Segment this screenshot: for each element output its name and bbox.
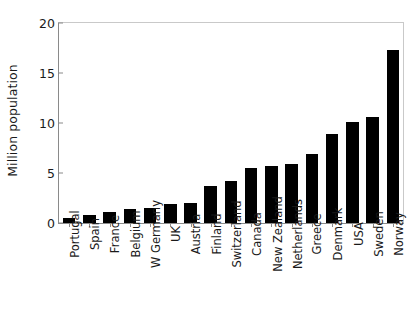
y-tick-20: 20 [39, 16, 59, 31]
x-axis-labels: PortugalSpainFranceBelgiumW GermanyUKAus… [58, 232, 402, 312]
y-axis-title: Million population [0, 0, 24, 240]
y-tick-label: 10 [39, 116, 59, 131]
y-tick-5: 5 [47, 166, 59, 181]
x-axis-label-new-zealand: New Zealand [260, 232, 280, 312]
y-tick-label: 5 [47, 166, 59, 181]
y-tick-label: 0 [47, 216, 59, 231]
x-axis-label-w-germany: W Germany [139, 232, 159, 312]
x-axis-label-canada: Canada [240, 232, 260, 312]
x-axis-label-netherlands: Netherlands [281, 232, 301, 312]
x-axis-label-austria: Austria [179, 232, 199, 312]
x-axis-label-finland: Finland [200, 232, 220, 312]
bar-usa[interactable] [346, 122, 359, 223]
x-axis-label-sweden: Sweden [362, 232, 382, 312]
x-axis-label-denmark: Denmark [321, 232, 341, 312]
x-axis-label-france: France [98, 232, 118, 312]
bar-chart: Million population 05101520 PortugalSpai… [0, 0, 418, 315]
bar-norway[interactable] [387, 50, 400, 223]
x-axis-label-usa: USA [341, 232, 361, 312]
bar-sweden[interactable] [366, 117, 379, 223]
x-axis-label-uk: UK [159, 232, 179, 312]
x-axis-label-belgium: Belgium [119, 232, 139, 312]
x-axis-label-portugal: Portugal [58, 232, 78, 312]
y-tick-15: 15 [39, 66, 59, 81]
y-tick-label: 15 [39, 66, 59, 81]
y-tick-label: 20 [39, 16, 59, 31]
x-axis-label-spain: Spain [78, 232, 98, 312]
x-axis-label-switzerland: Switzerland [220, 232, 240, 312]
plot-area: 05101520 [58, 22, 404, 224]
bar-uk[interactable] [164, 204, 177, 223]
y-tick-10: 10 [39, 116, 59, 131]
x-axis-label-greece: Greece [301, 232, 321, 312]
bars-layer [59, 23, 403, 223]
x-axis-label-text: Norway [392, 212, 406, 256]
x-axis-label-norway: Norway [382, 232, 402, 312]
y-axis-title-text: Million population [5, 64, 20, 177]
y-tick-0: 0 [47, 216, 59, 231]
